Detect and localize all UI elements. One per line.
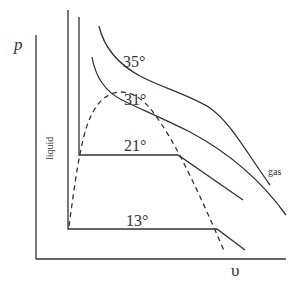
liquid-label: liquid xyxy=(44,137,55,160)
isotherm-13 xyxy=(68,10,245,250)
isotherm-label-13: 13° xyxy=(126,212,148,229)
isotherm-label-31: 31° xyxy=(124,91,146,108)
gas-label: gas xyxy=(268,166,281,177)
y-axis-label: p xyxy=(13,35,23,54)
isotherm-31 xyxy=(92,57,286,215)
isotherm-21 xyxy=(79,17,243,200)
isotherm-label-35: 35° xyxy=(123,53,145,70)
x-axis-label: υ xyxy=(231,261,239,280)
pv-diagram: p υ liquid gas 35° 31° 21° 13° xyxy=(0,0,300,290)
isotherm-label-21: 21° xyxy=(124,137,146,154)
